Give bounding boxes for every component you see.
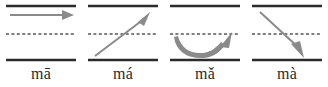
tone-label-4: mà: [246, 64, 328, 84]
pitch-staff-2: [82, 0, 164, 66]
tone-label-1: mā: [0, 64, 82, 84]
pitch-staff-1: [0, 0, 82, 66]
tone-panel-row: mā má: [0, 0, 328, 87]
tone-contour-arrow-dipping: [174, 32, 232, 58]
tone-panel-4: mà: [246, 0, 328, 87]
pitch-staff-4: [246, 0, 328, 66]
tone-contour-arrow-rising: [95, 12, 150, 56]
tone-panel-1: mā: [0, 0, 82, 87]
tone-contour-arrow-falling: [260, 12, 304, 58]
tone-contour-arrow-level: [10, 10, 74, 20]
tone-label-3: mǎ: [164, 64, 246, 84]
tone-label-2: má: [82, 64, 164, 84]
tone-diagram-figure: mā má: [0, 0, 328, 87]
tone-panel-2: má: [82, 0, 164, 87]
pitch-staff-3: [164, 0, 246, 66]
tone-panel-3: mǎ: [164, 0, 246, 87]
